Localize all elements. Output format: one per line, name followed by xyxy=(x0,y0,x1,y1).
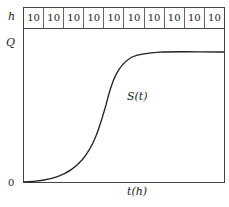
s-curve xyxy=(0,0,229,207)
